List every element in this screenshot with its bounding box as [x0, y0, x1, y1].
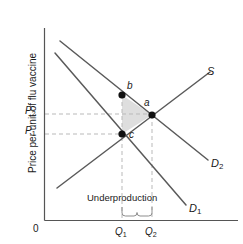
supply-curve-label: S: [207, 66, 214, 77]
x-tick-label-q1: Q1: [115, 227, 127, 238]
demand-curve-d2-label: D2: [211, 158, 223, 171]
point-b-marker: [118, 91, 125, 98]
x-tick-label-q2: Q2: [145, 227, 157, 238]
underproduction-brace: [122, 207, 152, 216]
point-c-marker: [118, 130, 125, 137]
demand-curve-d2: [60, 41, 208, 160]
point-a-label: a: [144, 98, 150, 108]
demand-curve-d1-label: D1: [189, 203, 201, 216]
point-a-marker: [148, 111, 155, 118]
point-c-label: c: [129, 130, 134, 140]
demand-curve-d1: [55, 53, 186, 205]
y-tick-label-p1: P1: [25, 126, 36, 137]
underproduction-label: Underproduction: [87, 193, 157, 203]
point-b-label: b: [127, 81, 133, 91]
origin-label: 0: [33, 224, 39, 234]
y-tick-label-p2: P2: [25, 106, 36, 117]
supply-demand-figure: Price per unit of flu vaccine S D2 D1 a …: [0, 0, 243, 244]
